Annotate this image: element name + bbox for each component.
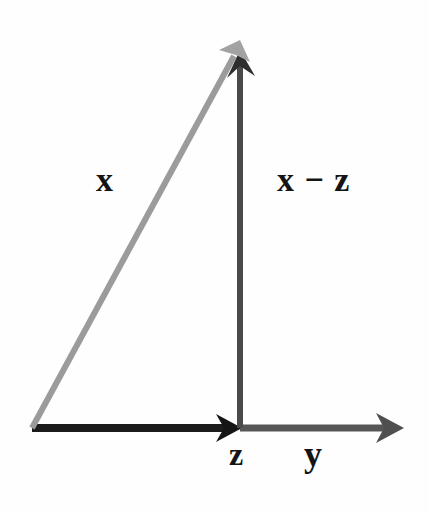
diagram-canvas (0, 0, 429, 513)
vector-x (32, 40, 250, 428)
axis-y (240, 413, 404, 443)
vector-x-label: x (96, 163, 113, 197)
vector-x-minus-z-label: x − z (277, 163, 350, 197)
vector-z-label: z (229, 438, 243, 470)
vector-x-minus-z (227, 50, 255, 428)
vector-diagram: x x − z z y (0, 0, 429, 513)
vector-z (32, 414, 242, 442)
vector-x-shaft (32, 56, 234, 428)
axis-y-label: y (304, 436, 322, 472)
